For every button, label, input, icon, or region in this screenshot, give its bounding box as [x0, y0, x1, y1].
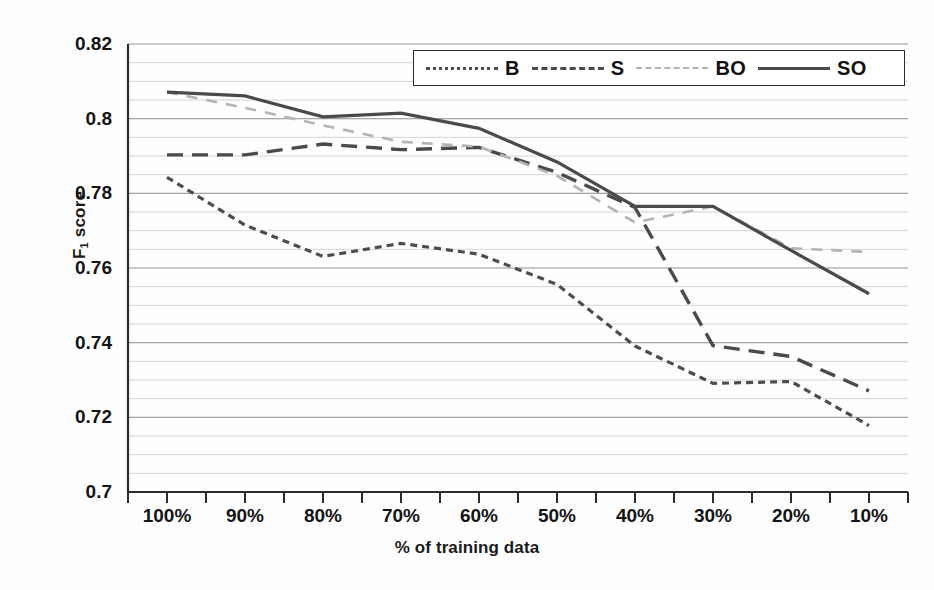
light-dashed-line-key [636, 61, 708, 75]
dashed-line-key [532, 61, 604, 75]
series-line-S [167, 144, 869, 391]
dotted-line-key-stroke [426, 67, 498, 70]
legend-item-S: S [520, 51, 625, 85]
legend-label-BO: BO [715, 57, 746, 80]
x-axis-tick-label: 30% [673, 505, 753, 527]
legend-label-B: B [505, 57, 520, 80]
x-axis-tick-label: 80% [283, 505, 363, 527]
legend-item-BO: BO [624, 51, 746, 85]
series-line-BO [167, 92, 869, 252]
x-axis-tick-label: 100% [127, 505, 207, 527]
x-axis-tick-label: 20% [751, 505, 831, 527]
x-axis-tick-label: 10% [829, 505, 909, 527]
legend-label-S: S [611, 57, 625, 80]
solid-line-key [758, 61, 830, 75]
x-axis-tick-label: 70% [361, 505, 441, 527]
x-axis-title: % of training data [0, 538, 934, 558]
x-axis-tick-label: 40% [595, 505, 675, 527]
x-axis-tick-label: 50% [517, 505, 597, 527]
solid-line-key-stroke [758, 67, 830, 70]
light-dashed-line-key-stroke [636, 67, 708, 69]
x-axis-tick-marks [128, 492, 908, 503]
data-series-group [167, 92, 869, 425]
x-axis-tick-label: 60% [439, 505, 519, 527]
legend-label-SO: SO [837, 57, 867, 80]
plot-area [0, 0, 934, 590]
legend-item-B: B [414, 51, 520, 85]
chart-figure: F1 score 0.820.80.780.760.740.720.7 100%… [0, 0, 934, 590]
dotted-line-key [426, 61, 498, 75]
series-line-B [167, 177, 869, 425]
legend-item-SO: SO [746, 51, 867, 85]
x-axis-tick-label: 90% [205, 505, 285, 527]
chart-legend: BSBOSO [413, 50, 905, 86]
dashed-line-key-stroke [532, 67, 604, 70]
